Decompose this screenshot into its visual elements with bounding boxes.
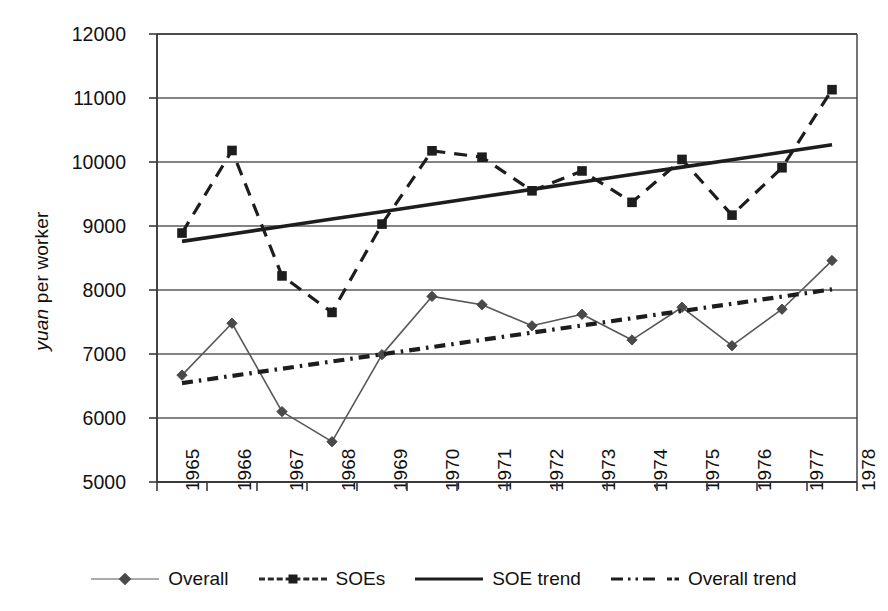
legend-key-overall-trend <box>611 571 679 587</box>
square-marker-icon <box>288 575 297 584</box>
series-line-overall-trend <box>182 289 832 383</box>
data-point-marker-diamond <box>277 406 287 416</box>
data-point-marker-square <box>277 271 287 281</box>
data-point-marker-square <box>777 163 787 173</box>
legend-label-overall-trend: Overall trend <box>688 568 797 590</box>
legend-key-soes <box>259 571 327 587</box>
legend-item-overall[interactable]: Overall <box>91 568 228 590</box>
legend-key-overall <box>91 571 159 587</box>
data-point-marker-square <box>827 85 837 95</box>
legend: Overall SOEs SOE trend Overall trend <box>0 568 888 590</box>
legend-label-soe-trend: SOE trend <box>492 568 581 590</box>
data-point-marker-diamond <box>477 300 487 310</box>
data-point-marker-square <box>477 152 487 162</box>
axis-frame <box>157 34 857 482</box>
plot-area <box>0 0 888 611</box>
data-point-marker-diamond <box>627 335 637 345</box>
chart-container: yuan per worker 12000 11000 10000 9000 8… <box>0 0 888 611</box>
legend-item-overall-trend[interactable]: Overall trend <box>611 568 797 590</box>
axis-ticks <box>149 34 857 491</box>
data-point-marker-square <box>177 228 187 238</box>
soe-trend-line-icon <box>415 578 483 581</box>
legend-label-soes: SOEs <box>336 568 386 590</box>
data-point-marker-square <box>577 166 587 176</box>
data-point-marker-diamond <box>577 309 587 319</box>
data-point-marker-square <box>677 155 687 165</box>
data-point-marker-diamond <box>527 321 537 331</box>
data-point-marker-square <box>377 219 387 229</box>
legend-item-soes[interactable]: SOEs <box>259 568 386 590</box>
diamond-marker-icon <box>119 573 132 586</box>
legend-key-soe-trend <box>415 571 483 587</box>
data-point-marker-square <box>627 198 637 208</box>
data-point-marker-square <box>327 308 337 318</box>
overall-trend-line-icon <box>611 571 679 587</box>
data-point-marker-square <box>427 146 437 156</box>
legend-item-soe-trend[interactable]: SOE trend <box>415 568 581 590</box>
legend-label-overall: Overall <box>168 568 228 590</box>
data-point-marker-diamond <box>327 436 337 446</box>
data-point-marker-square <box>727 210 737 220</box>
data-point-marker-square <box>227 146 237 156</box>
series-layer <box>177 85 837 447</box>
series-line-soe-trend <box>182 145 832 242</box>
